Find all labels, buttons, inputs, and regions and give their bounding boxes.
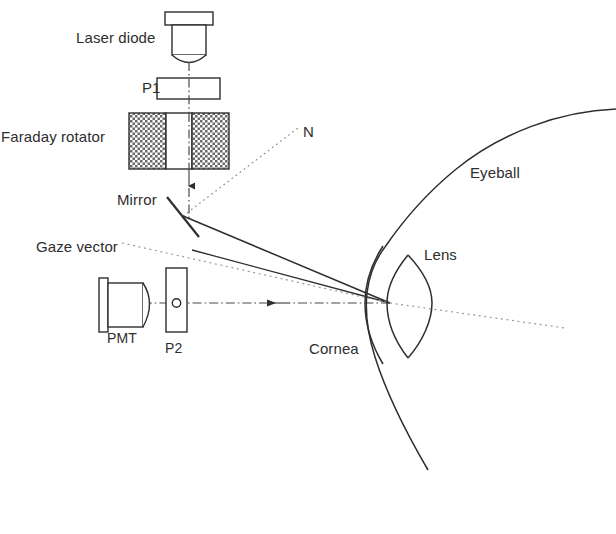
label-mirror: Mirror: [117, 192, 157, 207]
mirror-icon: [167, 197, 199, 237]
label-faraday-rotator: Faraday rotator: [1, 129, 105, 144]
label-lens: Lens: [424, 247, 457, 262]
label-pmt: PMT: [107, 331, 137, 345]
label-p1: P1: [142, 80, 161, 95]
diagram-canvas: Laser diode P1 Faraday rotator Mirror N …: [0, 0, 616, 534]
pmt-detector-icon: [99, 278, 150, 332]
eye-lens-outline: [387, 255, 432, 358]
label-eyeball: Eyeball: [470, 165, 520, 180]
cornea-outline: [365, 246, 383, 364]
optical-schematic-drawing: [0, 0, 616, 534]
label-laser-diode: Laser diode: [76, 30, 156, 45]
return-beam-ray: [192, 250, 390, 303]
laser-diode-icon: [165, 12, 213, 63]
gaze-vector-ray: [122, 243, 565, 328]
label-p2: P2: [165, 341, 182, 355]
label-normal: N: [303, 124, 314, 139]
faraday-rotator-icon: [129, 113, 229, 169]
illumination-beam-ray: [183, 216, 390, 303]
polarizer-p2-icon: [166, 268, 187, 332]
label-gaze-vector: Gaze vector: [36, 239, 118, 254]
label-cornea: Cornea: [309, 341, 359, 356]
